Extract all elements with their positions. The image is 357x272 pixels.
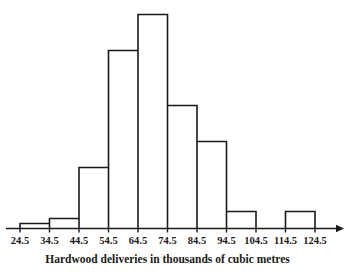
- bars-group: [20, 15, 315, 229]
- x-axis-tick-label: 74.5: [158, 235, 176, 246]
- x-axis-tick-labels: 24.534.544.554.564.574.584.594.5104.5114…: [11, 235, 327, 246]
- x-axis-tick-label: 114.5: [274, 235, 297, 246]
- histogram-chart: 24.534.544.554.564.574.584.594.5104.5114…: [0, 0, 357, 272]
- x-axis-tick-label: 84.5: [188, 235, 206, 246]
- x-axis-tick-label: 124.5: [303, 235, 327, 246]
- x-axis-tick-label: 64.5: [129, 235, 147, 246]
- x-axis-arrow-icon: [336, 225, 344, 232]
- x-axis-tick-label: 44.5: [70, 235, 88, 246]
- histogram-svg: 24.534.544.554.564.574.584.594.5104.5114…: [0, 0, 357, 272]
- x-axis-tick-label: 24.5: [11, 235, 29, 246]
- histogram-bar-outline: [20, 15, 315, 229]
- x-axis-tick-label: 94.5: [217, 235, 235, 246]
- x-axis-tick-label: 54.5: [99, 235, 117, 246]
- x-axis-tick-label: 34.5: [40, 235, 58, 246]
- x-axis-caption: Hardwood deliveries in thousands of cubi…: [45, 253, 290, 265]
- x-axis-tick-label: 104.5: [244, 235, 268, 246]
